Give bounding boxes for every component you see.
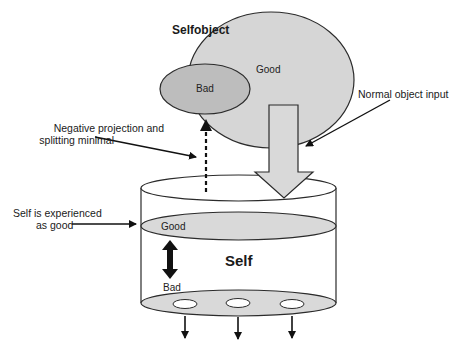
good-bad-double-arrow xyxy=(162,240,178,279)
self-label: Self xyxy=(225,255,253,267)
negative-projection-label-line1: Negative projection and xyxy=(34,122,164,134)
normal-object-input-label: Normal object input xyxy=(358,88,448,100)
cylinder-top-rim xyxy=(141,175,336,201)
self-experienced-label-line1: Self is experienced xyxy=(13,207,102,219)
diagram-canvas: Selfobject Good Bad Normal object input … xyxy=(0,0,456,351)
outflow-hole xyxy=(173,300,197,309)
self-experienced-label-line2: as good xyxy=(36,219,73,231)
bad-object-label: Bad xyxy=(196,83,214,95)
outflow-arrows xyxy=(185,316,292,339)
diagram-graphics xyxy=(0,0,456,351)
self-bad-level-label: Bad xyxy=(163,282,181,294)
good-object-label: Good xyxy=(256,64,280,76)
outflow-hole xyxy=(280,300,304,309)
selfobject-label: Selfobject xyxy=(172,24,229,36)
self-good-level-label: Good xyxy=(161,221,185,233)
outflow-hole xyxy=(226,299,250,308)
negative-projection-label-line2: splitting minimal xyxy=(34,134,114,146)
